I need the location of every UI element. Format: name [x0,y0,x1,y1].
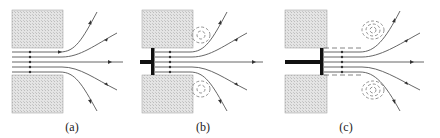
vortex-rings [362,21,384,99]
panel-c-label: (c) [339,120,352,135]
panel-b [140,10,263,113]
figure-canvas [0,0,440,138]
piston [285,48,324,75]
arrow-markers [341,18,414,104]
lower-wall [12,75,63,113]
streamlines [324,11,424,111]
panel-a [12,10,123,113]
panel-c [285,10,424,113]
lower-wall [142,75,193,113]
piston [140,48,155,75]
upper-wall [285,10,327,48]
panel-b-label: (b) [196,120,210,135]
panel-a-label: (a) [65,120,78,135]
lower-wall [285,75,327,113]
upper-wall [12,10,63,48]
upper-wall [142,10,193,48]
